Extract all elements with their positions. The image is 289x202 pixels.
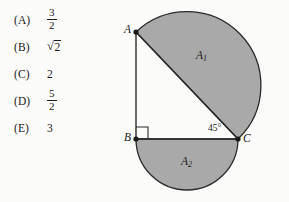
choice-label-d: (D): [14, 95, 40, 107]
vertex-dot-A: [133, 29, 138, 34]
semicircle-on-hypotenuse-A1: [136, 12, 261, 139]
radicand: 2: [54, 40, 61, 53]
choice-label-a: (A): [14, 14, 40, 26]
choice-value-a: 3 2: [40, 8, 57, 32]
fraction-numerator: 3: [47, 7, 57, 19]
numeric-value: 2: [47, 68, 53, 80]
region-subscript: 1: [203, 54, 207, 63]
choice-label-e: (E): [14, 122, 40, 134]
vertex-label-A: A: [124, 23, 131, 35]
diagram-canvas: [104, 0, 289, 202]
fraction-5-over-2: 5 2: [47, 88, 57, 112]
region-letter: A: [196, 49, 203, 61]
fraction-denominator: 2: [47, 100, 57, 113]
region-label-A1: A1: [196, 49, 207, 63]
choice-label-c: (C): [14, 68, 40, 80]
region-subscript: 2: [188, 160, 192, 169]
vertex-dot-C: [235, 136, 240, 141]
fraction-numerator: 5: [47, 88, 57, 100]
choice-value-c: 2: [40, 68, 53, 80]
vertex-dot-B: [133, 136, 138, 141]
vertex-label-C: C: [243, 132, 251, 144]
choice-value-d: 5 2: [40, 89, 57, 113]
vertex-label-B: B: [124, 131, 131, 143]
region-label-A2: A2: [181, 155, 192, 169]
numeric-value: 3: [47, 122, 53, 134]
choice-label-b: (B): [14, 41, 40, 53]
angle-label-45-degrees: 45°: [208, 123, 221, 133]
problem-figure-page: (A) 3 2 (B) √ 2 (C) 2 (: [0, 0, 289, 202]
geometry-diagram: A B C A1 A2 45°: [104, 0, 289, 202]
radical-sign-icon: √: [47, 40, 54, 54]
fraction-denominator: 2: [47, 19, 57, 32]
choice-value-b: √ 2: [40, 40, 61, 54]
region-letter: A: [181, 155, 188, 167]
square-root-of-2: √ 2: [47, 40, 61, 54]
fraction-3-over-2: 3 2: [47, 7, 57, 31]
choice-value-e: 3: [40, 122, 53, 134]
